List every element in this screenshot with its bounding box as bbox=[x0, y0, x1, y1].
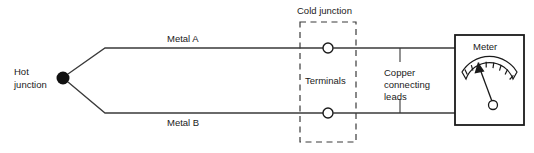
metal-a-wire bbox=[68, 48, 328, 74]
terminal-lower bbox=[323, 108, 333, 118]
hot-junction-dot bbox=[57, 72, 70, 85]
copper-leads-label-line2: connecting bbox=[384, 79, 430, 90]
copper-leads-label-line3: leads bbox=[384, 91, 407, 102]
terminal-upper bbox=[323, 43, 333, 53]
metal-b-wire bbox=[68, 82, 328, 113]
thermocouple-diagram: Hot junction Metal A Metal B Cold juncti… bbox=[0, 0, 534, 153]
hot-junction-label-line2: junction bbox=[13, 79, 47, 90]
metal-b-label: Metal B bbox=[167, 117, 199, 128]
meter-needle-pivot bbox=[489, 101, 498, 110]
hot-junction-label-line1: Hot bbox=[14, 66, 29, 77]
cold-junction-label: Cold junction bbox=[297, 5, 352, 16]
meter-label: Meter bbox=[473, 41, 497, 52]
metal-a-label: Metal A bbox=[167, 33, 199, 44]
copper-leads-label-line1: Copper bbox=[384, 67, 415, 78]
terminals-label: Terminals bbox=[305, 75, 346, 86]
thermocouple-schematic: Hot junction Metal A Metal B Cold juncti… bbox=[0, 0, 534, 153]
